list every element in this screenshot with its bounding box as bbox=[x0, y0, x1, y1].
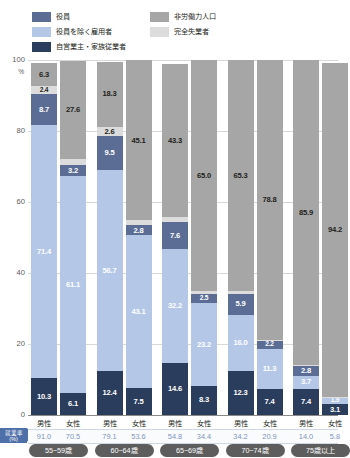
y-axis-tick: 100 bbox=[12, 55, 25, 64]
stacked-bar: 8.323.22.565.0 bbox=[191, 60, 217, 415]
bar-segment: 65.3 bbox=[228, 60, 254, 292]
bar-segment-value: 94.2 bbox=[328, 226, 342, 234]
bar-segment: 7.4 bbox=[257, 389, 283, 415]
bar-segment-value: 12.4 bbox=[103, 389, 117, 397]
bar-segment bbox=[293, 365, 319, 366]
bar-segment-value: 7.4 bbox=[301, 398, 311, 406]
bar-segment: 18.3 bbox=[97, 62, 123, 127]
bar-segment-value: 65.0 bbox=[197, 172, 211, 180]
legend-item-label: 役員 bbox=[56, 12, 70, 22]
y-axis-tick: 40 bbox=[17, 268, 25, 277]
employment-rate-value: 34.4 bbox=[191, 432, 217, 441]
x-axis-label: 女性 bbox=[191, 417, 217, 428]
bar-segment-value: 85.9 bbox=[299, 209, 313, 217]
bar-segment-value: 56.7 bbox=[103, 267, 117, 275]
bar-segment: 94.2 bbox=[322, 63, 348, 397]
age-group-pill: 60~64歳 bbox=[95, 444, 154, 457]
bar-segment-value: 16.0 bbox=[234, 339, 248, 347]
stacked-bar: 7.43.72.885.9 bbox=[293, 60, 319, 415]
bar-groups: 10.371.48.72.46.36.161.13.227.612.456.79… bbox=[28, 60, 338, 415]
bar-segment-value: 12.3 bbox=[234, 389, 248, 397]
legend-swatch-unemployed bbox=[150, 27, 169, 37]
bar-segment: 11.3 bbox=[257, 349, 283, 389]
employment-rate-value: 53.6 bbox=[126, 432, 152, 441]
bar-segment: 6.3 bbox=[31, 63, 57, 85]
bar-segment: 8.7 bbox=[31, 94, 57, 125]
legend-item[interactable]: 自営業主・家族従業者 bbox=[32, 39, 126, 54]
bar-segment: 56.7 bbox=[97, 170, 123, 371]
bar-segment: 12.3 bbox=[228, 371, 254, 415]
y-axis-tick: 20 bbox=[17, 339, 25, 348]
bar-segment bbox=[162, 217, 188, 222]
bar-segment: 7.4 bbox=[293, 389, 319, 415]
stacked-bar: 3.11.994.2 bbox=[322, 60, 348, 415]
gridline bbox=[28, 415, 338, 416]
x-axis-label: 女性 bbox=[60, 417, 86, 428]
bar-segment: 43.1 bbox=[126, 235, 152, 388]
bar-segment bbox=[60, 159, 86, 165]
bar-segment-value: 14.6 bbox=[168, 385, 182, 393]
bar-segment-value: 7.6 bbox=[170, 232, 180, 240]
legend-swatch-employees bbox=[32, 27, 51, 37]
bar-segment-value: 3.7 bbox=[301, 378, 311, 386]
legend-item[interactable]: 完全失業者 bbox=[150, 24, 216, 39]
bar-segment-value: 78.8 bbox=[263, 196, 277, 204]
bar-segment-value: 2.8 bbox=[134, 227, 144, 235]
employment-rate-value: 54.8 bbox=[162, 432, 188, 441]
employment-rate-tag-line2: (%) bbox=[0, 436, 27, 442]
bar-segment: 2.5 bbox=[191, 294, 217, 303]
bar-segment-value: 6.3 bbox=[39, 71, 49, 79]
x-axis-label: 男性 bbox=[97, 417, 123, 428]
bar-segment: 1.9 bbox=[322, 397, 348, 404]
bar-segment-value: 8.7 bbox=[39, 106, 49, 114]
bar-segment: 71.4 bbox=[31, 125, 57, 378]
bar-segment: 2.4 bbox=[31, 86, 57, 95]
bar-segment-value: 23.2 bbox=[197, 341, 211, 349]
bar-segment: 78.8 bbox=[257, 60, 283, 340]
stacked-bar: 10.371.48.72.46.3 bbox=[31, 60, 57, 415]
legend-item-label: 役員を除く雇用者 bbox=[56, 27, 112, 37]
x-axis-label: 男性 bbox=[293, 417, 319, 428]
legend-swatch-self-employed bbox=[32, 42, 51, 52]
x-axis-label: 女性 bbox=[322, 417, 348, 428]
bar-segment-value: 3.2 bbox=[68, 167, 78, 175]
bar-segment-value: 2.2 bbox=[265, 341, 274, 348]
stacked-bar: 14.632.27.643.3 bbox=[162, 60, 188, 415]
legend-item[interactable]: 役員を除く雇用者 bbox=[32, 24, 126, 39]
bar-segment bbox=[257, 340, 283, 341]
bar-segment: 3.7 bbox=[293, 376, 319, 389]
bar-segment: 43.3 bbox=[162, 64, 188, 218]
bar-segment: 2.8 bbox=[293, 366, 319, 376]
legend-swatch-officers bbox=[32, 12, 51, 22]
bar-segment: 6.1 bbox=[60, 393, 86, 415]
employment-rate-value: 5.8 bbox=[322, 432, 348, 441]
y-axis-unit: % bbox=[18, 68, 24, 75]
bar-segment-value: 43.1 bbox=[132, 308, 146, 316]
bar-segment bbox=[228, 291, 254, 293]
employment-rate-value: 91.0 bbox=[31, 432, 57, 441]
employment-rate-row: 91.070.579.153.654.834.434.220.914.05.8 bbox=[28, 429, 338, 444]
legend-item[interactable]: 役員 bbox=[32, 9, 126, 24]
x-axis-labels: 男性女性男性女性男性女性男性女性男性女性 bbox=[28, 417, 338, 429]
x-axis-label: 男性 bbox=[228, 417, 254, 428]
employment-rate-value: 79.1 bbox=[97, 432, 123, 441]
bar-segment-value: 10.3 bbox=[37, 393, 51, 401]
stacked-bar: 7.411.32.278.8 bbox=[257, 60, 283, 415]
bar-segment: 2.8 bbox=[126, 225, 152, 235]
bar-segment-value: 7.4 bbox=[265, 398, 275, 406]
x-axis-label: 女性 bbox=[126, 417, 152, 428]
bar-segment-value: 1.9 bbox=[331, 397, 340, 404]
bar-segment: 2.6 bbox=[97, 127, 123, 136]
age-group-pill: 55~59歳 bbox=[29, 444, 88, 457]
x-axis-label: 男性 bbox=[162, 417, 188, 428]
bar-segment-value: 18.3 bbox=[103, 90, 117, 98]
bar-segment: 65.0 bbox=[191, 60, 217, 291]
age-group-pill: 70~74歳 bbox=[226, 444, 285, 457]
bar-segment-value: 2.5 bbox=[200, 295, 209, 302]
legend-item[interactable]: 非労働力人口 bbox=[150, 9, 216, 24]
bar-segment-value: 27.6 bbox=[66, 106, 80, 114]
bar-segment: 9.5 bbox=[97, 136, 123, 170]
legend-item-label: 完全失業者 bbox=[174, 27, 209, 37]
employment-rate-value: 14.0 bbox=[293, 432, 319, 441]
bar-segment: 14.6 bbox=[162, 363, 188, 415]
